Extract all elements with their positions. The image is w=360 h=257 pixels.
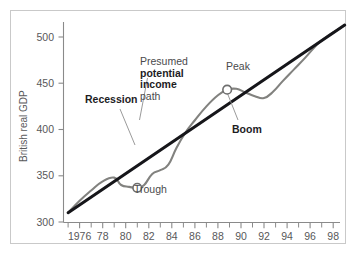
x-tick-label-94: 94 [281, 230, 293, 242]
x-tick-label-80: 80 [120, 230, 132, 242]
x-tick-label-82: 82 [143, 230, 155, 242]
y-tick-label-400: 400 [36, 123, 54, 135]
x-tick-label-88: 88 [212, 230, 224, 242]
x-tick-label-1976: 1976 [68, 230, 92, 242]
y-tick-label-450: 450 [36, 77, 54, 89]
income-label: income [140, 78, 177, 90]
peak-marker [223, 85, 232, 94]
x-tick-label-92: 92 [258, 230, 270, 242]
recession-leader-line [120, 109, 135, 145]
potential-label: potential [140, 67, 184, 79]
y-tick-label-350: 350 [36, 169, 54, 181]
x-tick-label-86: 86 [189, 230, 201, 242]
potential-income-trend-line [68, 25, 345, 213]
x-tick-label-84: 84 [166, 230, 178, 242]
x-tick-label-96: 96 [304, 230, 316, 242]
y-axis-ticks [59, 37, 64, 222]
presumed-label: Presumed [140, 55, 188, 67]
y-tick-label-500: 500 [36, 31, 54, 43]
recession-label: Recession [85, 93, 138, 105]
y-axis-title: British real GDP [18, 90, 29, 162]
peak-label: Peak [226, 60, 251, 72]
y-tick-label-300: 300 [36, 216, 54, 228]
trough-label: Trough [134, 183, 167, 195]
x-tick-label-90: 90 [235, 230, 247, 242]
path-label: path [140, 90, 161, 102]
x-axis-ticks [68, 223, 333, 229]
chart-plot-area: 500 450 400 350 300 British real GDP [0, 0, 360, 257]
x-tick-label-98: 98 [327, 230, 339, 242]
x-tick-label-78: 78 [97, 230, 109, 242]
boom-label: Boom [232, 123, 262, 135]
chart-figure: 500 450 400 350 300 British real GDP [0, 0, 360, 257]
